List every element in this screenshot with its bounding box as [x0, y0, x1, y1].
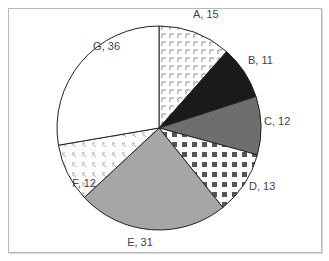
slice-label-e: E, 31	[127, 236, 153, 248]
slice-label-b: B, 11	[248, 54, 273, 66]
slice-label-a: A, 15	[193, 8, 219, 20]
slice-label-c: C, 12	[264, 115, 290, 127]
slice-label-g: G, 36	[93, 40, 120, 52]
pie-chart: A, 15B, 11C, 12D, 13E, 31F, 12G, 36	[0, 0, 329, 261]
slice-label-f: F, 12	[72, 177, 96, 189]
slice-label-d: D, 13	[249, 180, 275, 192]
